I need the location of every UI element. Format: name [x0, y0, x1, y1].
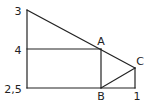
segment-bc [101, 68, 135, 88]
geometry-diagram: 3 4 2,5 A C B 1 [0, 0, 149, 106]
label-left-top: 3 [15, 5, 22, 18]
hypotenuse-edge [27, 10, 135, 68]
label-point-c: C [136, 55, 144, 68]
label-bottom-right: 1 [134, 90, 141, 103]
label-left-bottom: 2,5 [4, 83, 22, 96]
label-left-mid: 4 [15, 44, 22, 57]
label-point-b: B [97, 90, 105, 103]
label-point-a: A [97, 35, 105, 48]
